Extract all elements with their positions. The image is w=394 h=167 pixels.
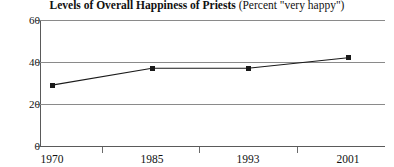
data-point-1970 (50, 83, 55, 88)
data-point-1985 (150, 66, 155, 71)
data-point-2001 (346, 55, 351, 60)
chart-screenshot: Levels of Overall Happiness of Priests (… (0, 0, 394, 167)
data-series-line (0, 0, 394, 167)
data-point-1993 (246, 66, 251, 71)
